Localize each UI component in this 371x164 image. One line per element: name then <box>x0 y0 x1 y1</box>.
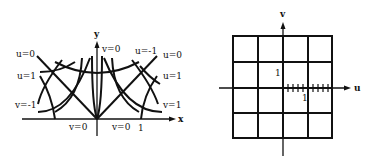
uv-plane-panel: v u 1 1 <box>219 9 361 156</box>
label-left-v-neg1: v=-1 <box>14 100 36 110</box>
y-axis-label: y <box>93 29 100 39</box>
label-right-u0: u=0 <box>163 50 182 60</box>
x-axis-arrow-icon <box>169 117 176 122</box>
label-bottom-left-v0: v=0 <box>68 122 88 132</box>
label-top-u-neg1: u=-1 <box>135 46 157 56</box>
u-axis-label: u <box>354 83 361 93</box>
label-x-tick-1: 1 <box>138 123 144 133</box>
v-axis-label: v <box>279 9 286 19</box>
u-tick-label-1: 1 <box>302 93 308 103</box>
curve-v0-inner-left <box>92 56 97 119</box>
x-axis-label: x <box>178 114 184 124</box>
u-axis-arrow-icon <box>344 86 351 91</box>
label-left-u0: u=0 <box>16 49 35 59</box>
xy-plane-panel: y x v=0 u=-1 u=0 u=1 v=-1 u=0 u=1 v=1 v=… <box>14 29 184 136</box>
v-axis-arrow-icon <box>281 22 286 29</box>
diagram-canvas: y x v=0 u=-1 u=0 u=1 v=-1 u=0 u=1 v=1 v=… <box>0 0 371 164</box>
v-tick-label-1: 1 <box>275 68 281 78</box>
label-right-u1: u=1 <box>163 71 182 81</box>
curve-v0-inner-right <box>97 56 102 119</box>
y-axis-arrow-icon <box>95 41 100 48</box>
label-bottom-right-v0: v=0 <box>111 122 131 132</box>
label-top-v0: v=0 <box>101 44 121 54</box>
label-left-u1: u=1 <box>17 71 36 81</box>
label-right-v1: v=1 <box>162 100 181 110</box>
